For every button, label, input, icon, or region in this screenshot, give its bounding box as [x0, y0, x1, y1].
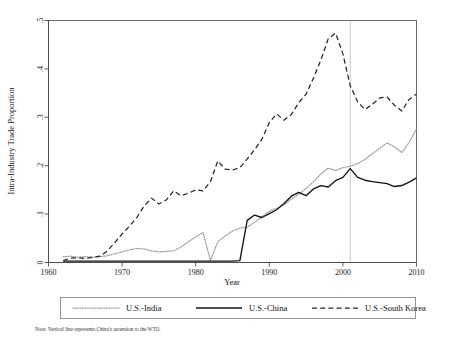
x-tick-label: 2010 — [409, 268, 425, 277]
x-tick-label: 1980 — [188, 268, 204, 277]
x-tick-label: 1990 — [261, 268, 277, 277]
chart-figure: 0.1.2.3.4.5 196019701980199020002010 Yea… — [0, 0, 457, 343]
y-tick-label: .4 — [36, 66, 45, 72]
x-tick-label: 1970 — [114, 268, 130, 277]
y-tick-label: .3 — [36, 114, 45, 120]
legend-label-u-s-south-korea: U.S.-South Korea — [365, 303, 426, 313]
legend-label-u-s-india: U.S.-India — [126, 303, 162, 313]
chart-note: Note: Vertical line represents China's a… — [35, 326, 161, 332]
y-axis-title: Intra-Industry Trade Proportion — [6, 87, 16, 195]
legend: U.S.-IndiaU.S.-ChinaU.S.-South Korea — [73, 303, 426, 313]
y-tick-label: .1 — [36, 211, 45, 217]
x-axis-title: Year — [224, 277, 240, 287]
data-series-group — [63, 33, 416, 261]
plot-frame — [49, 21, 417, 263]
x-tick-label: 2000 — [335, 268, 351, 277]
x-axis: 196019701980199020002010 — [41, 263, 425, 278]
y-tick-label: .5 — [36, 18, 45, 24]
y-tick-label: 0 — [36, 261, 45, 265]
series-line-u-s-china — [63, 169, 416, 261]
y-tick-label: .2 — [36, 163, 45, 169]
legend-label-u-s-china: U.S.-China — [249, 303, 287, 313]
x-tick-label: 1960 — [41, 268, 57, 277]
series-line-u-s-south-korea — [63, 33, 416, 260]
y-axis: 0.1.2.3.4.5 — [36, 18, 48, 265]
intra-industry-trade-line-chart: 0.1.2.3.4.5 196019701980199020002010 Yea… — [0, 0, 457, 343]
